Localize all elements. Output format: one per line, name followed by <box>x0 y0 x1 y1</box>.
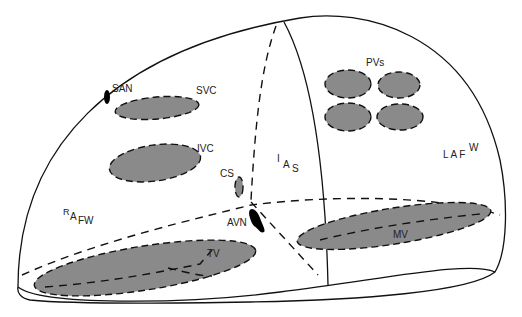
ias-label-s: S <box>292 163 299 174</box>
atria-diagram: SAN SVC IVC CS AVN TV MV PVs I A S R A F… <box>0 0 522 317</box>
lafw-label-w: W <box>469 142 479 153</box>
tv-structure <box>31 229 259 307</box>
septum-dashed <box>251 26 276 200</box>
cs-structure <box>235 177 243 197</box>
mv-label: MV <box>393 229 408 240</box>
svc-structure <box>114 93 200 122</box>
ivc-structure <box>107 139 203 187</box>
pv-structure <box>378 72 420 98</box>
tv-label: TV <box>207 248 220 259</box>
pv-structure <box>377 104 423 130</box>
pv-structure <box>325 103 371 131</box>
ias-label-a: A <box>283 159 290 170</box>
pv-structure <box>325 70 371 98</box>
avn-label: AVN <box>227 217 247 228</box>
ias-label-i: I <box>277 153 280 164</box>
rafw-label-r: R <box>63 207 70 217</box>
cs-label: CS <box>220 168 234 179</box>
lafw-label: L A F <box>443 149 465 160</box>
svc-label: SVC <box>196 85 217 96</box>
san-node <box>104 90 110 104</box>
ivc-label: IVC <box>197 143 214 154</box>
san-label: SAN <box>112 83 133 94</box>
pvs-label: PVs <box>366 57 384 68</box>
rafw-label-a: A <box>70 211 77 222</box>
rafw-label-fw: FW <box>78 215 94 226</box>
avn-node <box>249 209 264 232</box>
